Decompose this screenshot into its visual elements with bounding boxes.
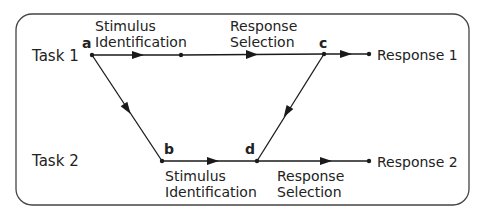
point-b-label: b [164, 141, 174, 157]
point-d-label: d [245, 141, 255, 157]
arrow-icon [132, 51, 144, 59]
node-task1-mid [179, 53, 183, 57]
point-a-label: a [82, 35, 91, 51]
task2-response-label: Response Selection [277, 168, 344, 200]
point-c-label: c [319, 35, 327, 51]
response2-label: Response 2 [377, 154, 458, 170]
arrow-icon [340, 50, 352, 58]
arrow-icon [121, 102, 134, 116]
response1-label: Response 1 [377, 47, 458, 63]
arrow-icon [207, 157, 219, 165]
node-c [322, 52, 326, 56]
node-response1 [367, 52, 371, 56]
task1-response-label: Response Selection [230, 18, 297, 50]
node-a [90, 53, 94, 57]
task1-label: Task 1 [32, 48, 79, 64]
task1-stimulus-label: Stimulus Identification [95, 18, 187, 50]
arrow-icon [320, 157, 332, 165]
node-b [160, 159, 164, 163]
arrow-icon [246, 50, 258, 59]
task2-stimulus-label: Stimulus Identification [165, 168, 257, 200]
node-d [255, 159, 259, 163]
task2-label: Task 2 [32, 153, 79, 169]
node-response2 [367, 159, 371, 163]
